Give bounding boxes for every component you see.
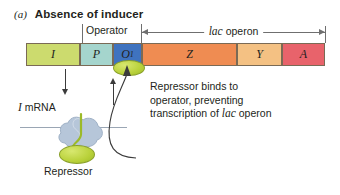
note-lac-italic: lac [222,107,236,119]
lac-operon-label: lac operon [204,24,264,38]
operator-label: Operator [86,24,127,36]
panel-title: (a) Absence of inducer [14,8,143,20]
operon-word: operon [226,25,259,37]
note-line-3-post: operon [236,107,272,119]
gene-box-A[interactable]: A [282,43,325,66]
gene-label-Y: Y [256,47,263,62]
note-line-2: operator, preventing [150,94,243,106]
gene-box-Y[interactable]: Y [237,43,282,66]
mrna-word: mRNA [25,101,56,113]
gene-label-A: A [300,47,307,62]
lac-operon-figure-panel-a: (a) Absence of inducer Operator lac oper… [0,0,340,195]
gene-label-O-subscript: 1 [130,50,134,59]
repressor-protein [59,145,95,164]
arrow-down-icon [62,89,68,95]
lac-operon-span: lac operon [142,26,325,40]
transcription-arrow-shaft [65,69,66,91]
note-line-1: Repressor binds to [150,80,238,92]
gene-label-Z: Z [186,47,193,62]
lac-italic: lac [209,25,223,37]
gene-bar: I P O1 Z Y A [26,43,325,66]
gene-label-I: I [51,47,55,62]
i-gene-italic: I [18,101,22,113]
gene-box-I[interactable]: I [26,43,80,66]
arrow-left-icon [142,29,148,35]
operator-bracket-left-tick [82,24,83,43]
panel-letter: (a) [14,8,27,20]
i-mrna-label: I mRNA [18,101,56,113]
panel-title-text: Absence of inducer [35,8,144,20]
explanatory-note: Repressor binds to operator, preventing … [150,80,330,121]
operon-bracket-right-tick [325,26,326,43]
repressor-label: Repressor [44,165,92,177]
note-line-3-pre: transcription of [150,107,222,119]
